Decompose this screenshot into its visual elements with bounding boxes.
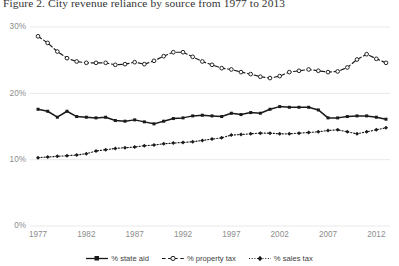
data-point-marker [249, 111, 252, 114]
data-point-marker [104, 148, 108, 152]
data-point-marker [336, 70, 340, 74]
x-axis-tick-label: 2002 [260, 230, 300, 239]
data-point-marker [46, 110, 49, 113]
figure-title: Figure 2. City revenue reliance by sourc… [3, 0, 285, 9]
data-point-marker [346, 115, 349, 118]
data-point-marker [123, 62, 127, 66]
legend-label-property-tax: % property tax [187, 255, 236, 263]
y-axis-tick-label: 10% [0, 155, 26, 164]
data-point-marker [220, 66, 224, 70]
data-point-marker [384, 61, 388, 65]
data-point-marker [94, 61, 98, 65]
data-point-marker [84, 152, 88, 156]
data-point-marker [374, 57, 378, 61]
data-point-marker [249, 132, 253, 136]
data-point-marker [268, 131, 272, 135]
data-point-marker [65, 56, 69, 60]
data-point-marker [153, 122, 156, 125]
legend-marker-state-aid-icon [86, 254, 108, 263]
legend-item-state-aid[interactable]: % state aid [86, 254, 149, 263]
data-point-marker [297, 131, 301, 135]
x-axis-tick-label: 1982 [66, 230, 106, 239]
x-axis-tick-label: 1997 [211, 230, 251, 239]
data-point-marker [171, 141, 175, 145]
data-point-marker [104, 61, 108, 65]
data-point-marker [113, 63, 117, 67]
data-point-marker [113, 146, 117, 150]
legend-item-property-tax[interactable]: % property tax [162, 254, 236, 263]
data-point-marker [55, 154, 59, 158]
data-point-marker [36, 34, 40, 38]
data-point-marker [123, 146, 127, 150]
data-point-marker [365, 130, 369, 134]
data-point-marker [365, 52, 369, 56]
data-point-marker [345, 130, 349, 134]
data-point-marker [162, 120, 165, 123]
data-point-marker [229, 133, 233, 137]
data-point-marker [142, 144, 146, 148]
data-point-marker [46, 155, 50, 159]
data-point-marker [374, 128, 378, 132]
legend-item-sales-tax[interactable]: % sales tax [249, 254, 313, 263]
data-point-marker [327, 116, 330, 119]
data-point-marker [316, 69, 320, 73]
x-axis-tick-label: 2012 [356, 230, 396, 239]
data-point-marker [162, 54, 166, 58]
data-point-marker [171, 50, 175, 54]
data-point-marker [220, 136, 224, 140]
data-point-marker [278, 74, 282, 78]
data-point-marker [385, 118, 388, 121]
data-point-marker [356, 114, 359, 117]
data-point-marker [220, 115, 223, 118]
data-point-marker [182, 116, 185, 119]
data-point-marker [36, 156, 40, 160]
data-point-marker [375, 116, 378, 119]
legend-marker-sales-tax-icon [249, 254, 271, 263]
data-point-marker [191, 140, 195, 144]
data-point-marker [355, 132, 359, 136]
data-point-marker [37, 108, 40, 111]
data-point-marker [172, 117, 175, 120]
data-point-marker [307, 68, 311, 72]
data-point-marker [133, 60, 137, 64]
data-point-marker [104, 116, 107, 119]
data-point-marker [46, 41, 50, 45]
y-axis-tick-label: 20% [0, 89, 26, 98]
data-point-marker [365, 114, 368, 117]
series-line-property-tax [38, 36, 386, 78]
data-point-marker [326, 128, 330, 132]
data-point-marker [75, 115, 78, 118]
legend-label-sales-tax: % sales tax [274, 255, 313, 263]
x-axis-tick-label: 1992 [163, 230, 203, 239]
data-point-marker [307, 130, 311, 134]
data-point-marker [200, 60, 204, 64]
x-axis-tick-label: 1977 [18, 230, 58, 239]
data-point-marker [124, 120, 127, 123]
data-point-marker [191, 114, 194, 117]
data-point-marker [384, 126, 388, 130]
data-point-marker [95, 116, 98, 119]
series-line-sales-tax [38, 128, 386, 158]
data-point-marker [200, 138, 204, 142]
data-point-marker [211, 114, 214, 117]
data-point-marker [191, 55, 195, 59]
data-point-marker [258, 131, 262, 135]
data-point-marker [84, 61, 88, 65]
data-point-marker [210, 137, 214, 141]
data-point-marker [181, 140, 185, 144]
data-point-marker [307, 106, 310, 109]
data-point-marker [336, 128, 340, 132]
data-point-marker [240, 113, 243, 116]
data-point-marker [229, 68, 233, 72]
data-point-marker [287, 70, 291, 74]
data-point-marker [297, 69, 301, 73]
data-point-marker [268, 76, 272, 80]
plot-area [30, 20, 390, 246]
data-point-marker [230, 112, 233, 115]
data-point-marker [133, 118, 136, 121]
data-point-marker [278, 132, 282, 136]
data-point-marker [181, 50, 185, 54]
data-point-marker [345, 66, 349, 70]
data-point-marker [258, 75, 262, 79]
data-point-marker [239, 70, 243, 74]
